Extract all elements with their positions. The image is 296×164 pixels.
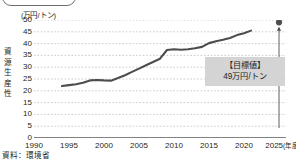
y-axis-title-char-1: 源 xyxy=(2,58,13,69)
source-note: 資料：環境省 xyxy=(2,151,50,161)
x-tick-year: 1995 xyxy=(60,141,78,150)
target-value-callout: 【目標値】 49万円/トン xyxy=(205,57,285,86)
target-marker-dot xyxy=(276,20,282,25)
y-tick-label-10: 10 xyxy=(18,110,32,118)
target-callout-line1: 【目標値】 xyxy=(207,60,283,71)
y-tick-label-40: 40 xyxy=(18,40,32,48)
x-tick-year: 2025 xyxy=(265,141,283,150)
x-tick-label-2000: 2000 xyxy=(95,141,113,150)
x-tick-label-2020: 2020 xyxy=(235,141,253,150)
y-tick-label-30: 30 xyxy=(18,63,32,71)
target-arrow-head xyxy=(277,27,281,31)
x-tick-year: 2015 xyxy=(200,141,218,150)
y-tick-label-45: 45 xyxy=(18,28,32,36)
x-axis-tick-labels: 19901995200020052010201520202025(年度) xyxy=(34,141,296,153)
x-tick-label-1990: 1990 xyxy=(25,141,43,150)
x-tick-label-2015: 2015 xyxy=(200,141,218,150)
x-tick-year: 1990 xyxy=(25,141,43,150)
x-tick-year: 2000 xyxy=(95,141,113,150)
x-tick-label-2005: 2005 xyxy=(130,141,148,150)
y-axis-title-char-3: 産 xyxy=(2,79,13,90)
x-tick-year: 2005 xyxy=(130,141,148,150)
target-callout-line2: 49万円/トン xyxy=(207,71,283,82)
y-axis-title-char-4: 性 xyxy=(2,89,13,100)
y-tick-label-20: 20 xyxy=(18,87,32,95)
y-tick-label-35: 35 xyxy=(18,51,32,59)
y-axis-tick-labels: 05101520253035404550 xyxy=(16,20,32,138)
top-rounded-tag xyxy=(2,0,76,6)
x-axis-unit-label: (年度) xyxy=(283,142,296,149)
y-tick-label-25: 25 xyxy=(18,75,32,83)
x-tick-label-2010: 2010 xyxy=(165,141,183,150)
x-tick-year: 2020 xyxy=(235,141,253,150)
resource-productivity-chart: (万円/トン) 資源生産性 05101520253035404550 19901… xyxy=(0,0,296,164)
x-tick-year: 2010 xyxy=(165,141,183,150)
y-axis-title-char-0: 資 xyxy=(2,47,13,58)
y-axis-title-char-2: 生 xyxy=(2,68,13,79)
x-tick-label-1995: 1995 xyxy=(60,141,78,150)
y-tick-label-15: 15 xyxy=(18,99,32,107)
y-tick-label-5: 5 xyxy=(18,122,32,130)
y-tick-label-50: 50 xyxy=(18,16,32,24)
y-axis-title: 資源生産性 xyxy=(2,47,13,100)
x-tick-label-2025: 2025(年度) xyxy=(265,141,296,150)
